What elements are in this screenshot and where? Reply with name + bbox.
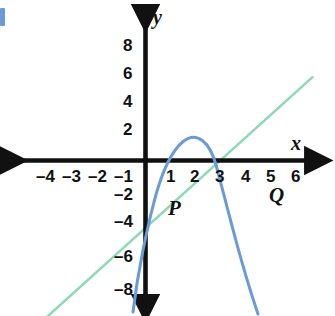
point-label-p: P: [168, 198, 181, 219]
y-axis-label: y: [153, 7, 162, 27]
x-tick-label: 1: [166, 168, 175, 185]
y-tick-label: –2: [114, 186, 133, 203]
graph-figure: y x –4 –3 –2 –1 1 2 3 4 5 6 8 6 4 2 –2 –…: [0, 0, 335, 316]
y-tick-label: 2: [123, 121, 132, 138]
x-axis-label: x: [291, 133, 301, 153]
x-tick-label: 2: [190, 168, 199, 185]
coordinate-plane-svg: [0, 0, 335, 316]
y-tick-label: –6: [114, 248, 133, 265]
parabola-curve: [133, 137, 258, 314]
x-tick-label: –2: [88, 168, 107, 185]
y-tick-label: 4: [123, 93, 132, 110]
point-label-q: Q: [269, 185, 284, 206]
x-tick-label: –1: [114, 168, 133, 185]
y-tick-label: 8: [123, 37, 132, 54]
x-tick-label: 4: [241, 168, 250, 185]
x-tick-label: 6: [291, 168, 300, 185]
x-tick-label: 3: [215, 168, 224, 185]
y-tick-label: 6: [123, 65, 132, 82]
y-tick-label: –8: [114, 281, 133, 298]
y-tick-label: –4: [114, 213, 133, 230]
x-tick-label: –3: [62, 168, 81, 185]
x-tick-label: –4: [36, 168, 55, 185]
